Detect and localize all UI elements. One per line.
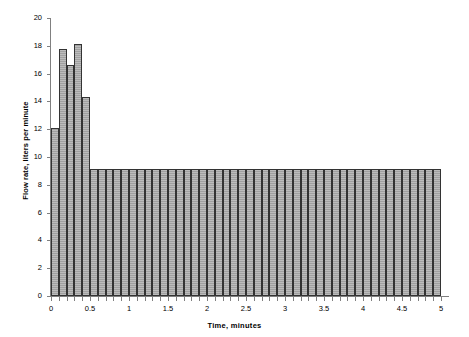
bar	[410, 169, 418, 296]
bar	[51, 128, 59, 296]
bar	[145, 169, 153, 296]
bar	[230, 169, 238, 296]
bar	[355, 169, 363, 296]
bar	[199, 169, 207, 296]
bar	[74, 44, 82, 296]
bar	[285, 169, 293, 296]
bar	[113, 169, 121, 296]
bar	[176, 169, 184, 296]
bar	[254, 169, 262, 296]
bar	[168, 169, 176, 296]
bar	[121, 169, 129, 296]
bar	[160, 169, 168, 296]
bar	[82, 97, 90, 296]
bar	[371, 169, 379, 296]
bar	[379, 169, 387, 296]
bar	[246, 169, 254, 296]
bar	[207, 169, 215, 296]
bar	[223, 169, 231, 296]
bar	[402, 169, 410, 296]
bar	[191, 169, 199, 296]
bar	[59, 49, 67, 296]
bar	[184, 169, 192, 296]
bar	[332, 169, 340, 296]
bars-layer	[0, 0, 469, 337]
bar	[363, 169, 371, 296]
bar	[394, 169, 402, 296]
bar	[262, 169, 270, 296]
bar	[152, 169, 160, 296]
bar	[277, 169, 285, 296]
bar	[425, 169, 433, 296]
bar	[137, 169, 145, 296]
bar	[347, 169, 355, 296]
bar	[418, 169, 426, 296]
bar	[98, 169, 106, 296]
bar	[67, 65, 75, 296]
flow-rate-histogram-chart: Flow rate, liters per minute 02468101214…	[0, 0, 469, 337]
bar	[340, 169, 348, 296]
bar	[238, 169, 246, 296]
bar	[269, 169, 277, 296]
bar	[215, 169, 223, 296]
bar	[106, 169, 114, 296]
bar	[90, 169, 98, 296]
bar	[316, 169, 324, 296]
x-axis-title: Time, minutes	[0, 321, 469, 330]
bar	[129, 169, 137, 296]
bar	[308, 169, 316, 296]
bar	[386, 169, 394, 296]
bar	[324, 169, 332, 296]
bar	[433, 169, 441, 296]
bar	[301, 169, 309, 296]
bar	[293, 169, 301, 296]
